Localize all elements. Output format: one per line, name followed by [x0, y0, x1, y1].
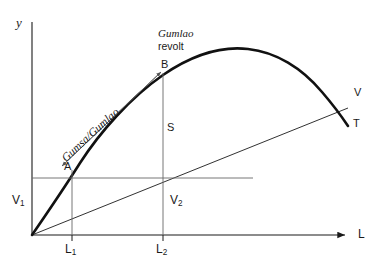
gumsa-gumlao-diagram: Gumsa/Gumlao y L A B S V T V1 V2 L1 L2 G… [0, 0, 381, 265]
gumlao-revolt-line1: Gumlao [158, 27, 193, 40]
gumlao-revolt-line2: revolt [158, 40, 193, 52]
l1-base: L [65, 242, 72, 256]
value-label-v2: V2 [170, 194, 183, 209]
point-label-t: T [353, 117, 360, 130]
ray-ov [32, 108, 348, 235]
x-axis-label: L [358, 228, 365, 242]
point-label-s: S [167, 121, 174, 134]
v1-base: V [12, 193, 20, 207]
point-label-v: V [354, 86, 361, 99]
value-label-v1: V1 [12, 194, 25, 209]
v2-base: V [170, 193, 178, 207]
l1-subscript: 1 [72, 248, 77, 257]
v1-subscript: 1 [20, 199, 25, 208]
l2-subscript: 2 [163, 248, 168, 257]
gumsa-gumlao-textpath: Gumsa/Gumlao [59, 105, 121, 163]
gumsa-gumlao-curve-text: Gumsa/Gumlao [59, 105, 121, 163]
tick-label-l2: L2 [156, 243, 167, 258]
l2-base: L [156, 242, 163, 256]
point-label-b: B [161, 58, 168, 71]
point-label-a: A [64, 160, 71, 173]
annotation-gumlao-revolt: Gumlao revolt [158, 27, 193, 52]
v2-subscript: 2 [178, 199, 183, 208]
tick-label-l1: L1 [65, 243, 76, 258]
y-axis-label: y [16, 16, 22, 31]
